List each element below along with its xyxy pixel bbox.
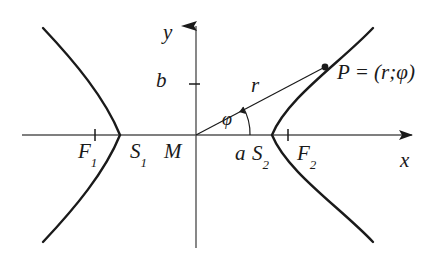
semi-major-axis-label: a: [235, 143, 246, 164]
semi-minor-axis-label: b: [156, 70, 167, 91]
center-label: M: [164, 141, 182, 162]
focus-right-label: F2: [297, 143, 316, 167]
radius-label: r: [251, 75, 259, 96]
point-p-label: P = (r;φ): [337, 62, 415, 83]
radius-vector: [196, 67, 325, 135]
hyperbola-figure: y b x M a F1 S1 S2 F2 r φ P = (r;φ): [0, 0, 434, 260]
focus-right-subscript: 2: [310, 157, 317, 172]
vertex-right-letter: S: [252, 141, 263, 165]
y-axis-label: y: [163, 22, 172, 43]
vertex-left-subscript: 1: [141, 155, 148, 170]
x-axis-label: x: [400, 150, 409, 171]
vertex-right-subscript: 2: [263, 157, 270, 172]
diagram-canvas: [0, 0, 434, 260]
vertex-right-label: S2: [252, 143, 269, 167]
focus-left-subscript: 1: [91, 155, 98, 170]
focus-left-label: F1: [78, 141, 97, 165]
vertex-left-label: S1: [130, 141, 147, 165]
vertex-left-letter: S: [130, 139, 141, 163]
angle-label: φ: [222, 110, 232, 128]
focus-left-letter: F: [78, 139, 91, 163]
focus-right-letter: F: [297, 141, 310, 165]
point-p-marker: [322, 64, 329, 71]
